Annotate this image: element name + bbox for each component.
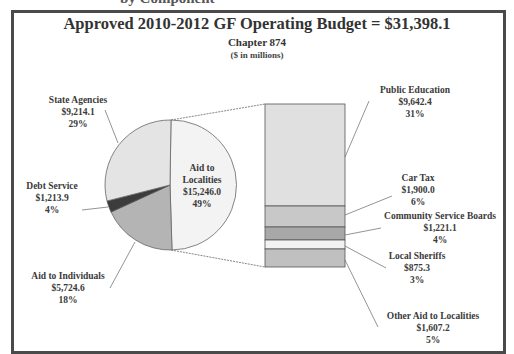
connector-top <box>171 104 265 120</box>
label-aid-to-individuals: Aid to Individuals $5,724.6 18% <box>18 270 118 306</box>
connector-bottom <box>171 250 265 267</box>
label-car-tax: Car Tax $1,900.0 6% <box>378 172 458 208</box>
bar-community-service-boards <box>265 227 345 240</box>
bar-other-aid <box>265 249 345 267</box>
label-debt-service: Debt Service $1,213.9 4% <box>17 180 87 216</box>
label-community-service-boards: Community Service Boards $1,221.1 4% <box>380 210 500 246</box>
label-aid-to-localities: Aid to Localities $15,246.0 49% <box>172 162 232 210</box>
label-public-education: Public Education $9,642.4 31% <box>360 84 470 120</box>
leader-other-aid <box>345 260 378 327</box>
bar-public-education <box>265 104 345 206</box>
label-other-aid: Other Aid to Localities $1,607.2 5% <box>378 310 488 346</box>
label-state-agencies: State Agencies $9,214.1 29% <box>28 94 128 130</box>
bar-local-sheriffs <box>265 240 345 249</box>
bar-car-tax <box>265 206 345 227</box>
leader-community-service-boards <box>345 228 381 235</box>
label-local-sheriffs: Local Sheriffs $875.3 3% <box>382 250 452 286</box>
leader-local-sheriffs <box>345 246 386 268</box>
